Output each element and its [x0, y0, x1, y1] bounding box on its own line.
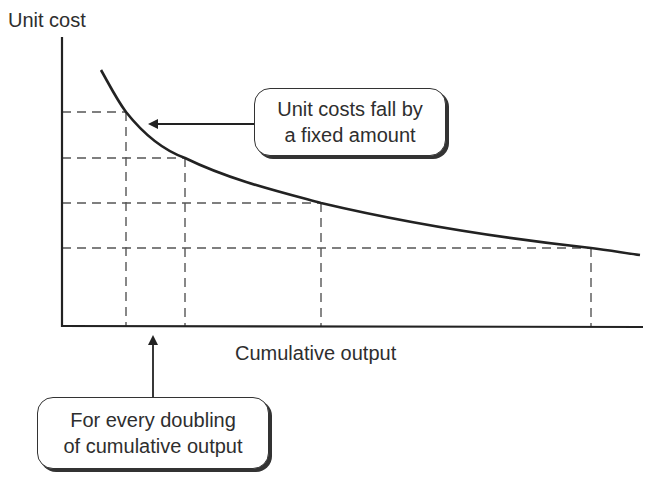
callout-doubling: For every doubling of cumulative output: [37, 397, 269, 469]
callout-doubling-line2: of cumulative output: [38, 433, 268, 459]
y-axis-label: Unit cost: [8, 9, 86, 32]
x-axis: [61, 326, 643, 327]
callout-cost-fall-line1: Unit costs fall by: [255, 96, 445, 122]
callout-cost-fall: Unit costs fall by a fixed amount: [254, 88, 446, 156]
callout-doubling-line1: For every doubling: [38, 407, 268, 433]
x-axis-label: Cumulative output: [235, 342, 396, 365]
callout-cost-fall-line2: a fixed amount: [255, 122, 445, 148]
